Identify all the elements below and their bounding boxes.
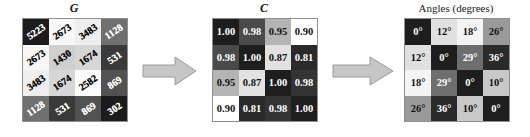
- matrix-cell-value: 0.90: [295, 26, 313, 37]
- matrix-cell: 5223: [23, 19, 49, 45]
- matrix-cell: 1430: [49, 45, 75, 71]
- matrix-cell-value: 531: [53, 99, 72, 117]
- matrix-cell: 531: [101, 45, 127, 71]
- panel-g: G 52232673348311282673143016745313483167…: [22, 2, 128, 122]
- matrix-cell: 0.90: [291, 19, 317, 45]
- matrix-cell: 29°: [457, 45, 483, 71]
- matrix-cell: 0°: [431, 45, 457, 71]
- matrix-cell-value: 0.87: [243, 77, 261, 88]
- matrix-cell-value: 2673: [51, 22, 74, 42]
- arrow-g-to-c-icon: [142, 56, 197, 86]
- matrix-cell: 1674: [75, 45, 101, 71]
- matrix-cell-value: 2582: [77, 73, 100, 93]
- matrix-cell-value: 12°: [411, 52, 426, 63]
- matrix-cell-value: 1.00: [295, 103, 313, 114]
- matrix-cell-value: 0.81: [295, 52, 313, 63]
- matrix-cell: 531: [49, 96, 75, 122]
- matrix-cell: 2582: [75, 70, 101, 96]
- matrix-cell: 0°: [457, 70, 483, 96]
- matrix-cell: 29°: [431, 70, 457, 96]
- matrix-angles: 0°12°18°26°12°0°29°36°18°29°0°10°26°36°1…: [404, 18, 510, 122]
- matrix-cell: 0.81: [291, 45, 317, 71]
- matrix-cell: 36°: [483, 45, 509, 71]
- matrix-cell-value: 0.95: [269, 26, 287, 37]
- matrix-cell-value: 36°: [437, 103, 452, 114]
- matrix-cell-value: 0°: [465, 77, 474, 88]
- matrix-cell-value: 3483: [25, 73, 48, 93]
- matrix-cell: 3483: [23, 70, 49, 96]
- panel-angles: Angles (degrees) 0°12°18°26°12°0°29°36°1…: [404, 2, 510, 122]
- matrix-cell-value: 0.98: [217, 52, 235, 63]
- matrix-cell-value: 26°: [411, 103, 426, 114]
- matrix-cell: 0.87: [265, 45, 291, 71]
- matrix-cell: 0.81: [239, 96, 265, 122]
- matrix-cell: 18°: [405, 70, 431, 96]
- matrix-cell-value: 10°: [463, 103, 478, 114]
- matrix-cell: 0.98: [265, 96, 291, 122]
- matrix-cell-value: 0.95: [217, 77, 235, 88]
- matrix-cell: 0°: [405, 19, 431, 45]
- matrix-cell-value: 1.00: [269, 77, 287, 88]
- panel-c: C 1.000.980.950.900.981.000.870.810.950.…: [212, 2, 318, 122]
- matrix-cell-value: 531: [105, 48, 124, 66]
- matrix-cell-value: 302: [105, 99, 124, 117]
- matrix-cell: 2673: [49, 19, 75, 45]
- matrix-cell-value: 26°: [489, 26, 504, 37]
- matrix-cell: 10°: [457, 96, 483, 122]
- matrix-cell: 1674: [49, 70, 75, 96]
- matrix-cell-value: 0.87: [269, 52, 287, 63]
- panel-angles-title: Angles (degrees): [404, 2, 508, 15]
- matrix-c: 1.000.980.950.900.981.000.870.810.950.87…: [212, 18, 318, 122]
- arrow-c-to-angles-icon: [332, 56, 394, 86]
- matrix-cell: 302: [101, 96, 127, 122]
- matrix-cell-value: 3483: [77, 22, 100, 42]
- matrix-cell-value: 0.90: [217, 103, 235, 114]
- matrix-cell-value: 869: [105, 74, 124, 92]
- matrix-cell: 0.87: [239, 70, 265, 96]
- matrix-cell-value: 0.81: [243, 103, 261, 114]
- matrix-cell-value: 18°: [411, 77, 426, 88]
- matrix-cell: 869: [75, 96, 101, 122]
- matrix-cell-value: 0°: [491, 103, 500, 114]
- matrix-cell: 0.90: [213, 96, 239, 122]
- matrix-cell: 1128: [101, 19, 127, 45]
- matrix-cell-value: 12°: [437, 26, 452, 37]
- matrix-cell: 2673: [23, 45, 49, 71]
- matrix-cell: 1.00: [291, 96, 317, 122]
- matrix-cell-value: 36°: [489, 52, 504, 63]
- matrix-cell: 26°: [483, 19, 509, 45]
- arrow-right-icon: [142, 56, 197, 86]
- matrix-cell-value: 1.00: [217, 26, 235, 37]
- matrix-cell: 0°: [483, 96, 509, 122]
- matrix-cell-value: 0°: [439, 52, 448, 63]
- matrix-cell: 36°: [431, 96, 457, 122]
- matrix-cell-value: 2673: [25, 47, 48, 67]
- matrix-cell-value: 1674: [77, 47, 100, 67]
- matrix-cell-value: 0°: [413, 26, 422, 37]
- matrix-cell-value: 29°: [437, 77, 452, 88]
- matrix-cell-value: 0.98: [243, 26, 261, 37]
- arrow-right-icon: [332, 56, 394, 86]
- matrix-cell: 869: [101, 70, 127, 96]
- matrix-cell: 0.95: [213, 70, 239, 96]
- matrix-cell: 26°: [405, 96, 431, 122]
- matrix-cell: 0.98: [213, 45, 239, 71]
- matrix-cell: 10°: [483, 70, 509, 96]
- matrix-cell: 1.00: [239, 45, 265, 71]
- matrix-cell-value: 29°: [463, 52, 478, 63]
- matrix-cell-value: 1.00: [243, 52, 261, 63]
- matrix-cell-value: 1674: [51, 73, 74, 93]
- matrix-g: 5223267334831128267314301674531348316742…: [22, 18, 128, 122]
- panel-c-title: C: [212, 2, 316, 15]
- matrix-cell: 0.95: [265, 19, 291, 45]
- matrix-cell-value: 1128: [25, 98, 47, 118]
- matrix-cell: 0.98: [239, 19, 265, 45]
- matrix-cell: 1128: [23, 96, 49, 122]
- matrix-cell-value: 1128: [103, 22, 125, 42]
- matrix-cell: 12°: [405, 45, 431, 71]
- matrix-cell: 1.00: [213, 19, 239, 45]
- matrix-cell: 18°: [457, 19, 483, 45]
- panel-g-title: G: [22, 2, 126, 15]
- matrix-cell-value: 1430: [51, 47, 74, 67]
- matrix-cell-value: 10°: [489, 77, 504, 88]
